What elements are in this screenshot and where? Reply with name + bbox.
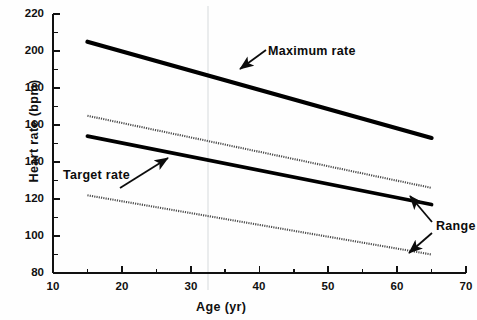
plot-area [0,0,477,320]
y-tick-label-200: 200 [10,44,44,56]
series-target-rate [87,136,431,204]
arrow-range-upper [410,196,432,222]
x-tick-label-50: 50 [308,280,348,292]
annotation-target-rate: Target rate [63,168,130,182]
series-maximum-rate [87,42,431,138]
y-tick-label-80: 80 [10,266,44,278]
arrow-maximum-rate [240,50,266,69]
x-tick-label-20: 20 [102,280,142,292]
y-tick-label-220: 220 [10,7,44,19]
y-tick-label-100: 100 [10,229,44,241]
axis-lines [53,14,466,273]
heart-rate-age-chart: 220 200 180 160 140 120 100 80 10 20 30 … [0,0,477,320]
series-range-lower [87,195,431,254]
y-tick-label-120: 120 [10,192,44,204]
x-tick-label-40: 40 [239,280,279,292]
y-axis-title: Heart rate (bpm) [27,71,41,191]
x-axis-title: Age (yr) [196,300,246,314]
arrow-range-lower [409,233,432,253]
annotation-maximum-rate: Maximum rate [268,44,356,58]
x-tick-label-60: 60 [377,280,417,292]
x-major-ticks [53,266,466,273]
x-tick-label-70: 70 [446,280,477,292]
annotation-range: Range [436,219,476,233]
x-tick-label-10: 10 [33,280,73,292]
x-tick-label-30: 30 [171,280,211,292]
